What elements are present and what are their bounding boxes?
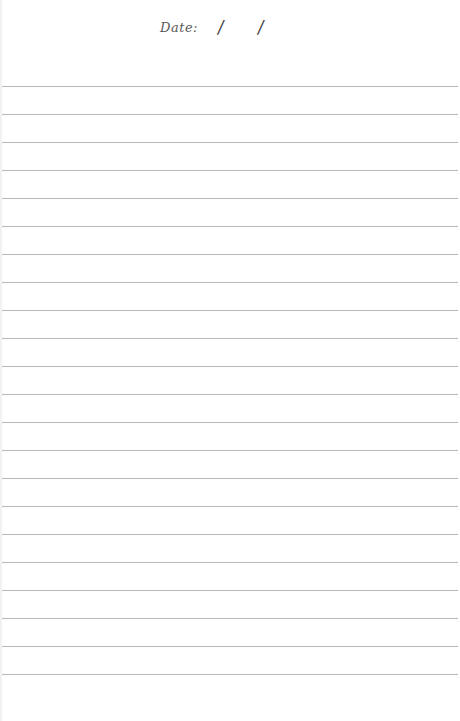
ruled-line — [2, 394, 458, 395]
ruled-line — [2, 226, 458, 227]
ruled-line — [2, 674, 458, 675]
ruled-line — [2, 310, 458, 311]
ruled-line — [2, 478, 458, 479]
ruled-line — [2, 282, 458, 283]
ruled-line — [2, 198, 458, 199]
ruled-line — [2, 562, 458, 563]
ruled-line — [2, 142, 458, 143]
ruled-line — [2, 450, 458, 451]
ruled-line — [2, 646, 458, 647]
ruled-lines — [0, 0, 460, 721]
ruled-line — [2, 338, 458, 339]
ruled-line — [2, 506, 458, 507]
ruled-line — [2, 422, 458, 423]
ruled-line — [2, 170, 458, 171]
ruled-line — [2, 534, 458, 535]
ruled-line — [2, 254, 458, 255]
ruled-line — [2, 86, 458, 87]
ruled-line — [2, 366, 458, 367]
ruled-line — [2, 618, 458, 619]
ruled-line — [2, 590, 458, 591]
ruled-line — [2, 114, 458, 115]
